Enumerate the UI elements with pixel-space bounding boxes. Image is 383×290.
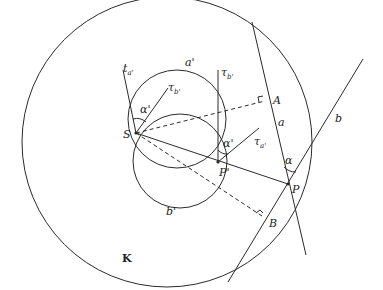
point-s	[134, 131, 137, 134]
label-p: P	[291, 183, 300, 196]
label-tau-b-prime-p: τb'	[221, 66, 234, 81]
label-p-prime: P'	[218, 166, 229, 179]
label-s: S	[123, 128, 131, 141]
line-a	[252, 22, 306, 255]
circle-b-prime	[133, 114, 227, 208]
label-tau-a-prime-p: τa'	[254, 135, 266, 150]
label-b-prime: b'	[166, 205, 176, 218]
label-alpha-prime-p: α'	[223, 137, 233, 150]
label-t-a-prime: ta'	[123, 62, 134, 77]
right-angle-b	[256, 210, 263, 213]
label-line-b: b	[335, 112, 342, 125]
point-p	[286, 182, 289, 185]
label-tau-b-prime-s: τb'	[168, 81, 181, 96]
label-k: K	[122, 252, 132, 265]
segment-s-p	[136, 133, 288, 184]
circle-a-prime	[128, 70, 226, 168]
label-a-point: A	[272, 94, 281, 107]
tangent-t-a-prime	[123, 70, 136, 133]
label-b-point: B	[268, 217, 277, 230]
label-alpha-prime-s: α'	[140, 103, 150, 116]
point-p-prime	[216, 160, 219, 163]
label-line-a: a	[278, 116, 285, 129]
label-alpha: α	[285, 154, 293, 167]
inversion-diagram: K S A B P P' a b a' b' α α' α' ta' τb' τ…	[0, 0, 383, 290]
label-a-prime: a'	[185, 56, 195, 69]
right-angle-a	[258, 96, 263, 102]
